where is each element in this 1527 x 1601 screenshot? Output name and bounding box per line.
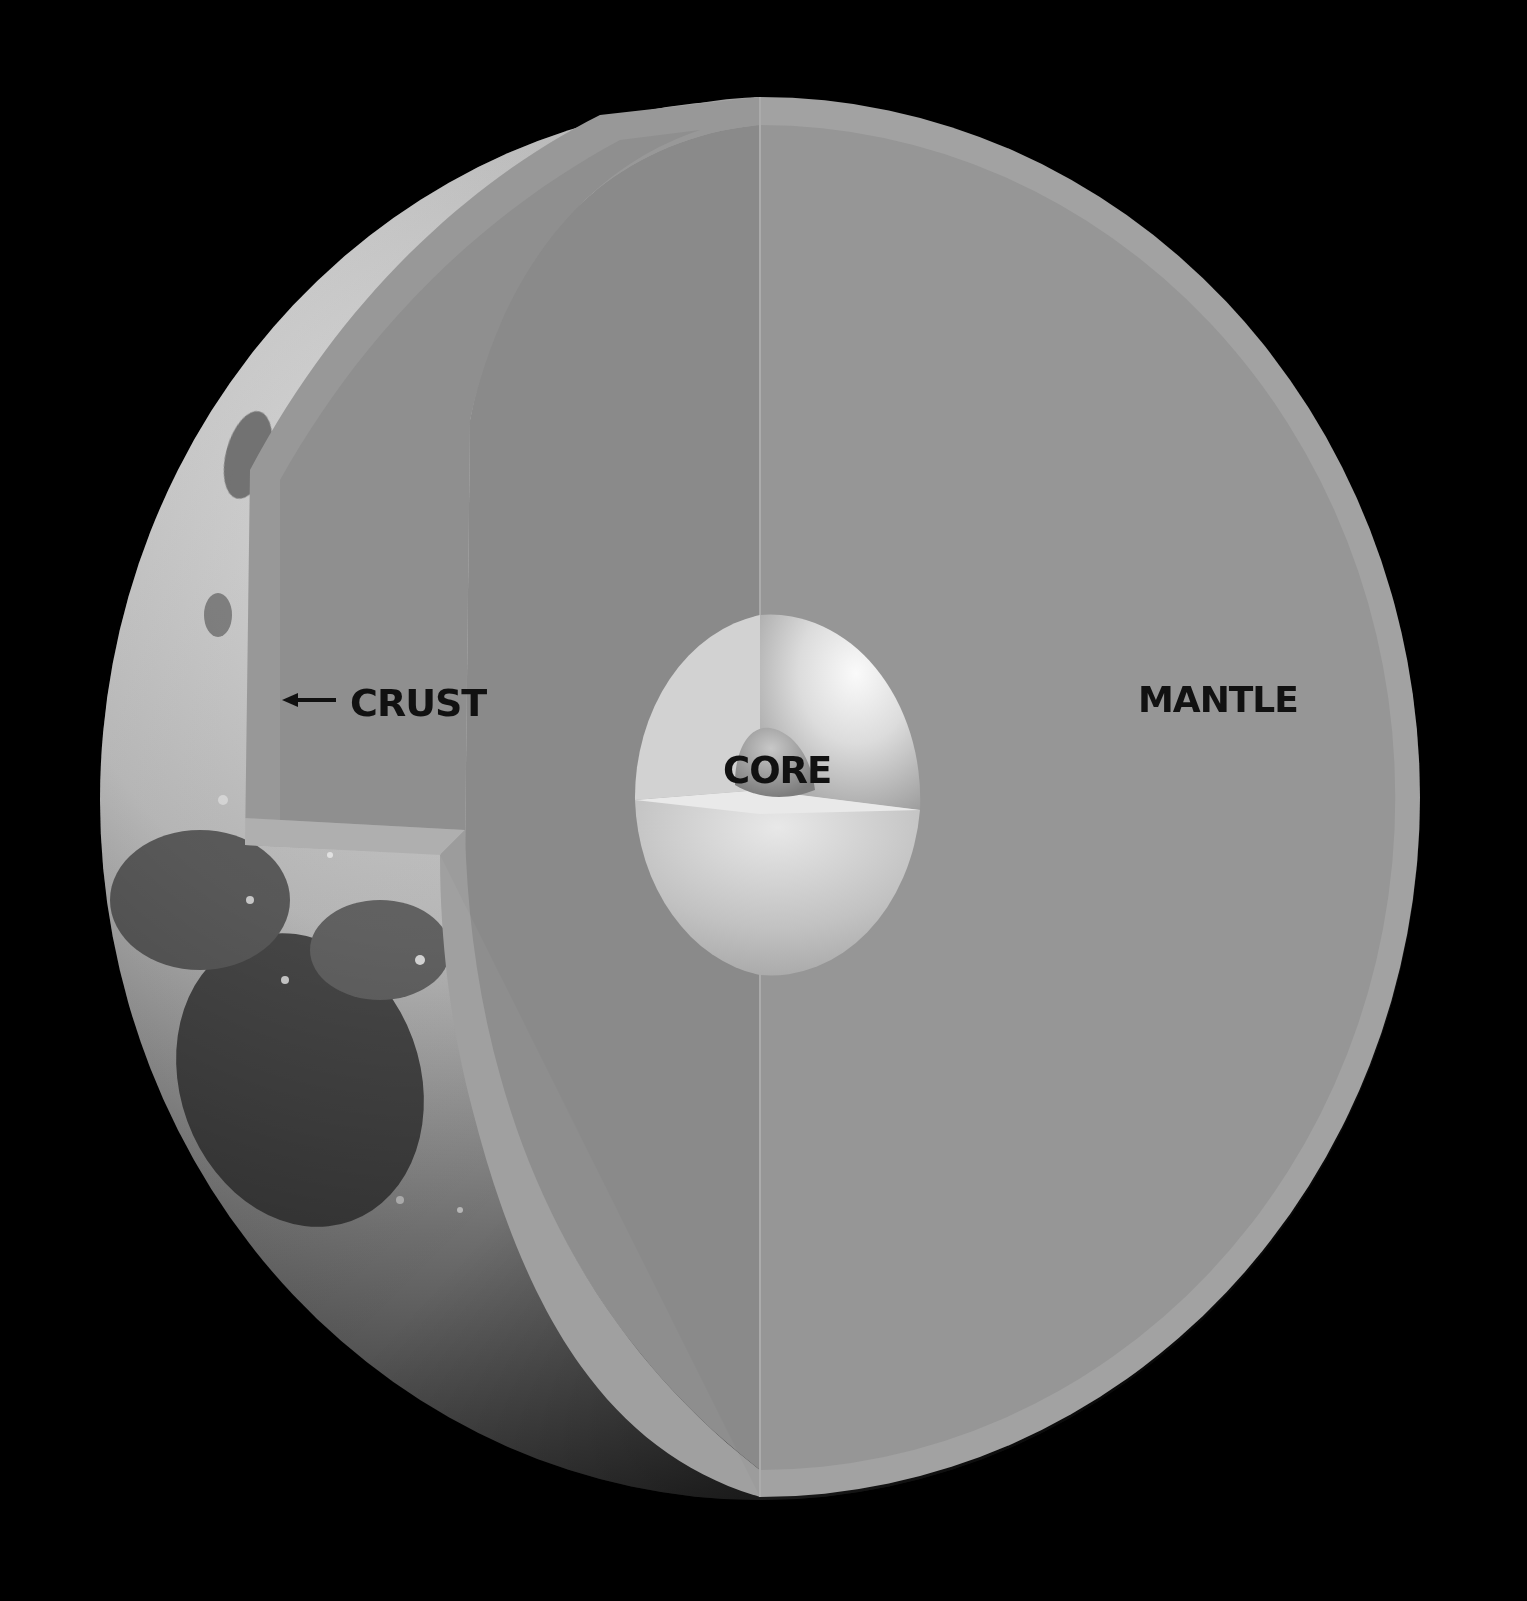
moon-cutaway-illustration [0,0,1527,1601]
core-label: CORE [723,752,831,789]
left-arrow-icon [282,690,336,710]
mantle-label: MANTLE [1138,682,1298,718]
crust-label: CRUST [350,684,486,722]
moon-structure-diagram: CRUST MANTLE CORE [0,0,1527,1601]
